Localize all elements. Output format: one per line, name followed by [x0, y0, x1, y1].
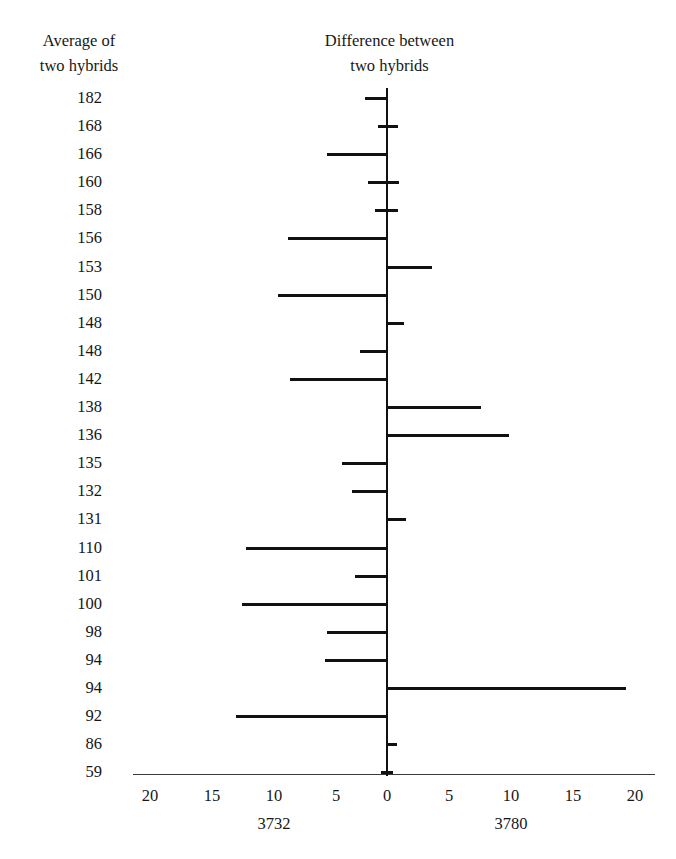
difference-bar	[365, 97, 387, 100]
chart-row: 131	[0, 509, 676, 537]
column-header-difference: Difference between two hybrids	[272, 28, 507, 78]
difference-bar	[387, 518, 406, 521]
column-header-average: Average of two hybrids	[6, 28, 152, 78]
chart-row: 160	[0, 172, 676, 200]
row-label-average: 110	[24, 538, 102, 558]
row-label-average: 160	[24, 172, 102, 192]
row-label-average: 150	[24, 285, 102, 305]
difference-bar	[288, 237, 387, 240]
row-label-average: 148	[24, 313, 102, 333]
difference-bar	[290, 378, 387, 381]
row-label-average: 94	[24, 678, 102, 698]
axis-tick-label: 10	[254, 786, 294, 806]
row-label-average: 98	[24, 622, 102, 642]
chart-row: 168	[0, 116, 676, 144]
chart-row: 148	[0, 341, 676, 369]
difference-bar	[387, 322, 404, 325]
row-label-average: 132	[24, 481, 102, 501]
difference-bar	[375, 209, 399, 212]
chart-row: 182	[0, 88, 676, 116]
axis-tick-label: 20	[130, 786, 170, 806]
axis-tick-label: 20	[615, 786, 655, 806]
chart-row: 156	[0, 228, 676, 256]
chart-row: 100	[0, 594, 676, 622]
axis-tick-label: 15	[192, 786, 232, 806]
row-label-average: 158	[24, 200, 102, 220]
chart-row: 101	[0, 566, 676, 594]
row-label-average: 92	[24, 706, 102, 726]
row-label-average: 59	[24, 762, 102, 782]
row-label-average: 168	[24, 116, 102, 136]
difference-bar	[368, 181, 399, 184]
row-label-average: 100	[24, 594, 102, 614]
difference-bar	[387, 743, 397, 746]
axis-note: 3780	[466, 814, 556, 834]
difference-bar	[387, 687, 626, 690]
hybrid-difference-chart: Average of two hybrids Difference betwee…	[0, 0, 676, 859]
chart-row: 166	[0, 144, 676, 172]
axis-tick-label: 10	[491, 786, 531, 806]
axis-tick-label: 5	[429, 786, 469, 806]
axis-tick-label: 0	[367, 786, 407, 806]
difference-bar	[327, 153, 387, 156]
chart-row: 136	[0, 425, 676, 453]
row-label-average: 142	[24, 369, 102, 389]
difference-bar	[236, 715, 387, 718]
difference-bar	[246, 547, 387, 550]
chart-row: 135	[0, 453, 676, 481]
axis-note: 3732	[229, 814, 319, 834]
chart-row: 153	[0, 257, 676, 285]
difference-bar	[325, 659, 387, 662]
difference-bar	[387, 434, 509, 437]
chart-row: 142	[0, 369, 676, 397]
axis-tick-label: 5	[316, 786, 356, 806]
chart-row: 94	[0, 650, 676, 678]
difference-bar	[355, 575, 387, 578]
difference-bar	[387, 266, 432, 269]
chart-row: 158	[0, 200, 676, 228]
row-label-average: 136	[24, 425, 102, 445]
row-label-average: 94	[24, 650, 102, 670]
chart-row: 150	[0, 285, 676, 313]
row-label-average: 131	[24, 509, 102, 529]
row-label-average: 182	[24, 88, 102, 108]
chart-row: 86	[0, 734, 676, 762]
chart-row: 132	[0, 481, 676, 509]
row-label-average: 138	[24, 397, 102, 417]
row-label-average: 101	[24, 566, 102, 586]
chart-row: 138	[0, 397, 676, 425]
difference-bar	[352, 490, 387, 493]
row-label-average: 135	[24, 453, 102, 473]
axis-baseline	[133, 774, 655, 775]
row-label-average: 166	[24, 144, 102, 164]
difference-bar	[278, 294, 387, 297]
row-label-average: 153	[24, 257, 102, 277]
difference-bar	[360, 350, 387, 353]
axis-tick-label: 15	[553, 786, 593, 806]
chart-row: 98	[0, 622, 676, 650]
chart-row: 94	[0, 678, 676, 706]
difference-bar	[387, 406, 481, 409]
row-label-average: 86	[24, 734, 102, 754]
chart-row: 148	[0, 313, 676, 341]
chart-row: 92	[0, 706, 676, 734]
chart-rows: 1821681661601581561531501481481421381361…	[0, 88, 676, 790]
chart-row: 110	[0, 538, 676, 566]
difference-bar	[378, 125, 398, 128]
difference-bar	[242, 603, 387, 606]
row-label-average: 156	[24, 228, 102, 248]
row-label-average: 148	[24, 341, 102, 361]
difference-bar	[342, 462, 387, 465]
difference-bar	[327, 631, 387, 634]
zero-axis-tick	[386, 766, 388, 775]
